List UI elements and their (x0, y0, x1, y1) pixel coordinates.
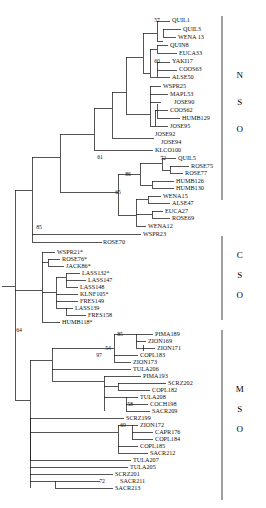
taxon-label: SACR212 (150, 449, 175, 456)
bootstrap-value: 85 (36, 224, 42, 230)
taxon-label: COOS62 (170, 106, 193, 113)
bootstrap-value: 86 (125, 171, 131, 177)
group-label-cso: S (237, 270, 243, 280)
taxon-label: FRES158 (88, 311, 112, 318)
taxon-label: COPL184 (155, 435, 180, 442)
taxon-label: HUMB130 (176, 184, 204, 191)
taxon-label: HUMB118* (62, 318, 93, 325)
taxon-label: SCRZ202 (168, 379, 193, 386)
taxon-label: ZION171 (157, 344, 181, 351)
taxon-label: WENA 13 (178, 33, 204, 40)
taxon-label: ROSE76* (62, 255, 87, 262)
taxon-label: ZION172 (140, 421, 164, 428)
taxon-label: LASS148 (80, 283, 104, 290)
bootstrap-value: 85 (117, 331, 123, 337)
taxon-label: ZION169 (148, 337, 172, 344)
taxon-label: SACR211 (120, 477, 145, 484)
taxon-label: WSPR23 (143, 230, 166, 237)
taxon-label: YAKI17 (172, 57, 193, 64)
taxon-label: COPL183 (140, 351, 165, 358)
group-label-nso: S (237, 97, 243, 107)
taxon-label: LASS132* (82, 269, 110, 276)
taxon-label: WENA15 (163, 192, 188, 199)
taxon-label: ALSE47 (172, 199, 194, 206)
taxon-label: JOSE92 (155, 130, 175, 137)
group-label-cso: O (237, 290, 244, 300)
group-label-nso: N (237, 70, 244, 80)
taxon-label: QUIL1 (172, 16, 190, 23)
taxon-label: COCH198 (150, 400, 176, 407)
taxon-label: JACK86* (66, 262, 91, 269)
group-label-cso: C (237, 250, 244, 260)
taxon-label: PIMA193 (143, 372, 168, 379)
taxon-label: ALSE50 (172, 73, 194, 80)
group-label-mso: M (236, 384, 245, 394)
taxon-label: SCRZ201 (115, 470, 140, 477)
taxon-label: KLCO100 (155, 146, 181, 153)
taxon-label: KLNF105* (80, 290, 109, 297)
taxon-label: WENA12 (148, 222, 173, 229)
taxon-label: JOSE95 (170, 122, 190, 129)
bootstrap-value: 58 (127, 401, 133, 407)
taxon-label: TULA205 (130, 463, 156, 470)
taxon-label: ROSE70 (103, 238, 125, 245)
taxon-label: HUMB126 (176, 177, 204, 184)
taxon-label: MAPL53 (170, 90, 193, 97)
bootstrap-value: 60 (154, 58, 160, 64)
taxon-label: LASS139 (75, 304, 99, 311)
group-label-nso: O (237, 124, 244, 134)
group-label-mso: O (237, 424, 244, 434)
taxon-label: TULA207 (133, 456, 159, 463)
taxon-label: TULA206 (133, 365, 159, 372)
taxon-label: JOSE90 (174, 98, 194, 105)
bootstrap-value: 72 (99, 478, 105, 484)
group-labels: NSOCSOMSO (236, 70, 245, 434)
taxon-label: ROSE69 (172, 214, 194, 221)
taxon-label: HUMB129 (182, 114, 210, 121)
taxon-label: SCRZ199 (126, 414, 151, 421)
taxon-label: SACR209 (152, 407, 177, 414)
taxon-label: EUCA27 (165, 207, 188, 214)
taxon-label: PIMA189 (155, 330, 180, 337)
taxon-label: ROSE77 (185, 169, 207, 176)
bootstrap-value: 64 (16, 327, 22, 333)
taxon-label: COPL185 (140, 442, 165, 449)
taxon-label: ROSE75 (191, 162, 213, 169)
taxon-label: QUIL3 (183, 25, 201, 32)
bootstrap-value: 61 (97, 154, 103, 160)
bootstrap-value: 69 (120, 422, 126, 428)
taxon-label: TULA208 (140, 393, 166, 400)
taxon-label: COPL182 (152, 386, 177, 393)
taxon-label: LASS147 (88, 276, 112, 283)
tree-branches (2, 21, 189, 488)
taxon-label: ZION173 (133, 358, 157, 365)
taxon-label: QUIL5 (178, 154, 196, 161)
bootstrap-value: 97 (96, 352, 102, 358)
bootstrap-value: 57 (154, 17, 160, 23)
tree-canvas: QUIL1QUIL3WENA 13QUIN8EUCA33YAKI17COOS63… (0, 0, 266, 508)
phylogenetic-tree-figure: QUIL1QUIL3WENA 13QUIN8EUCA33YAKI17COOS63… (0, 0, 266, 508)
taxon-label: JOSE94 (161, 138, 181, 145)
bootstrap-value: 54 (105, 345, 111, 351)
taxon-label: EUCA33 (179, 49, 202, 56)
taxon-label: FRES149 (80, 297, 104, 304)
taxon-label: WSPR25 (163, 82, 186, 89)
group-label-mso: S (237, 404, 243, 414)
bootstrap-value: 72 (160, 155, 166, 161)
bootstrap-value: 65 (115, 189, 121, 195)
taxon-label: QUIN8 (170, 41, 189, 48)
taxon-label: WSPR21* (57, 248, 83, 255)
taxon-label: COOS63 (179, 65, 202, 72)
taxon-label: SACR213 (115, 484, 140, 491)
taxon-labels: QUIL1QUIL3WENA 13QUIN8EUCA33YAKI17COOS63… (57, 16, 213, 491)
taxon-label: CAPR176 (155, 428, 180, 435)
